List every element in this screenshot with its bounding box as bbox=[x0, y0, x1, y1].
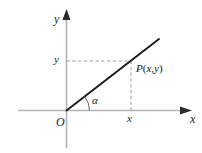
point-close-paren: ) bbox=[159, 62, 163, 74]
y-axis-label: y bbox=[54, 13, 59, 25]
geometry-figure: y x O y x α P(x,y) bbox=[0, 0, 202, 153]
x-axis-label: x bbox=[190, 113, 195, 125]
figure-canvas bbox=[0, 0, 202, 153]
point-p-label: P(x,y) bbox=[136, 63, 163, 74]
point-p-name: P bbox=[136, 62, 143, 74]
angle-alpha-label: α bbox=[92, 95, 98, 106]
angle-arc bbox=[85, 97, 90, 111]
ray-line bbox=[67, 39, 160, 111]
y-tick-label: y bbox=[54, 54, 59, 65]
y-axis-arrow-icon bbox=[63, 9, 71, 20]
x-tick-label: x bbox=[127, 113, 132, 124]
origin-label: O bbox=[56, 116, 65, 128]
